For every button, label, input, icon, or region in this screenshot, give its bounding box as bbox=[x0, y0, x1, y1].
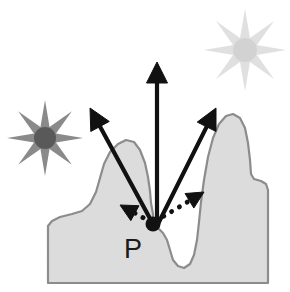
sun-left-dark bbox=[7, 100, 83, 176]
sun-right-light-ray bbox=[239, 59, 250, 91]
sun-left-dark-core bbox=[34, 127, 56, 149]
sun-right-light-ray bbox=[204, 44, 236, 55]
sun-left-dark-ray bbox=[40, 146, 50, 176]
light-scattering-diagram: P bbox=[0, 0, 290, 292]
sun-left-dark-ray bbox=[40, 100, 50, 130]
point-p-label: P bbox=[124, 234, 142, 264]
sun-right-light bbox=[204, 9, 286, 91]
point-p-marker bbox=[146, 217, 161, 232]
sun-right-light-core bbox=[233, 38, 257, 62]
sun-left-dark-ray bbox=[53, 133, 83, 143]
outgoing-ray-vertical-head bbox=[147, 62, 168, 83]
sun-right-light-ray bbox=[254, 44, 286, 55]
sun-left-dark-ray bbox=[7, 133, 37, 143]
sun-right-light-ray bbox=[239, 9, 250, 41]
diagram-canvas: P bbox=[0, 0, 290, 292]
